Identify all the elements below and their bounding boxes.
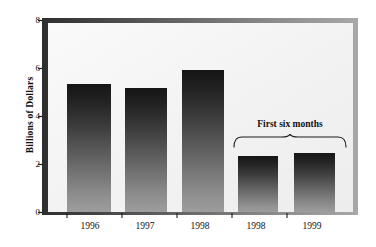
x-tick-label-1998: 1998 [177,221,223,231]
curly-brace-icon [232,134,348,148]
plot-area [48,23,353,212]
bar-chart-figure: Billions of Dollars 8 6 4 2 0 1996 19 [0,0,376,247]
x-tick-label-1999-partial: 1999 [289,221,335,231]
bar-1999-first-six-months [294,153,335,212]
bar-1998-first-six-months [238,156,278,212]
x-axis-tick-marks [42,212,362,220]
x-tick-label-1996: 1996 [67,221,113,231]
x-tick-label-1998-partial: 1998 [233,221,279,231]
annotation-label: First six months [232,119,348,129]
x-tick-label-1997: 1997 [122,221,168,231]
bar-1998 [182,70,224,212]
plot-frame [42,18,358,215]
bar-1997 [125,88,167,212]
first-six-months-annotation: First six months [232,119,348,149]
bar-1996 [67,84,111,212]
